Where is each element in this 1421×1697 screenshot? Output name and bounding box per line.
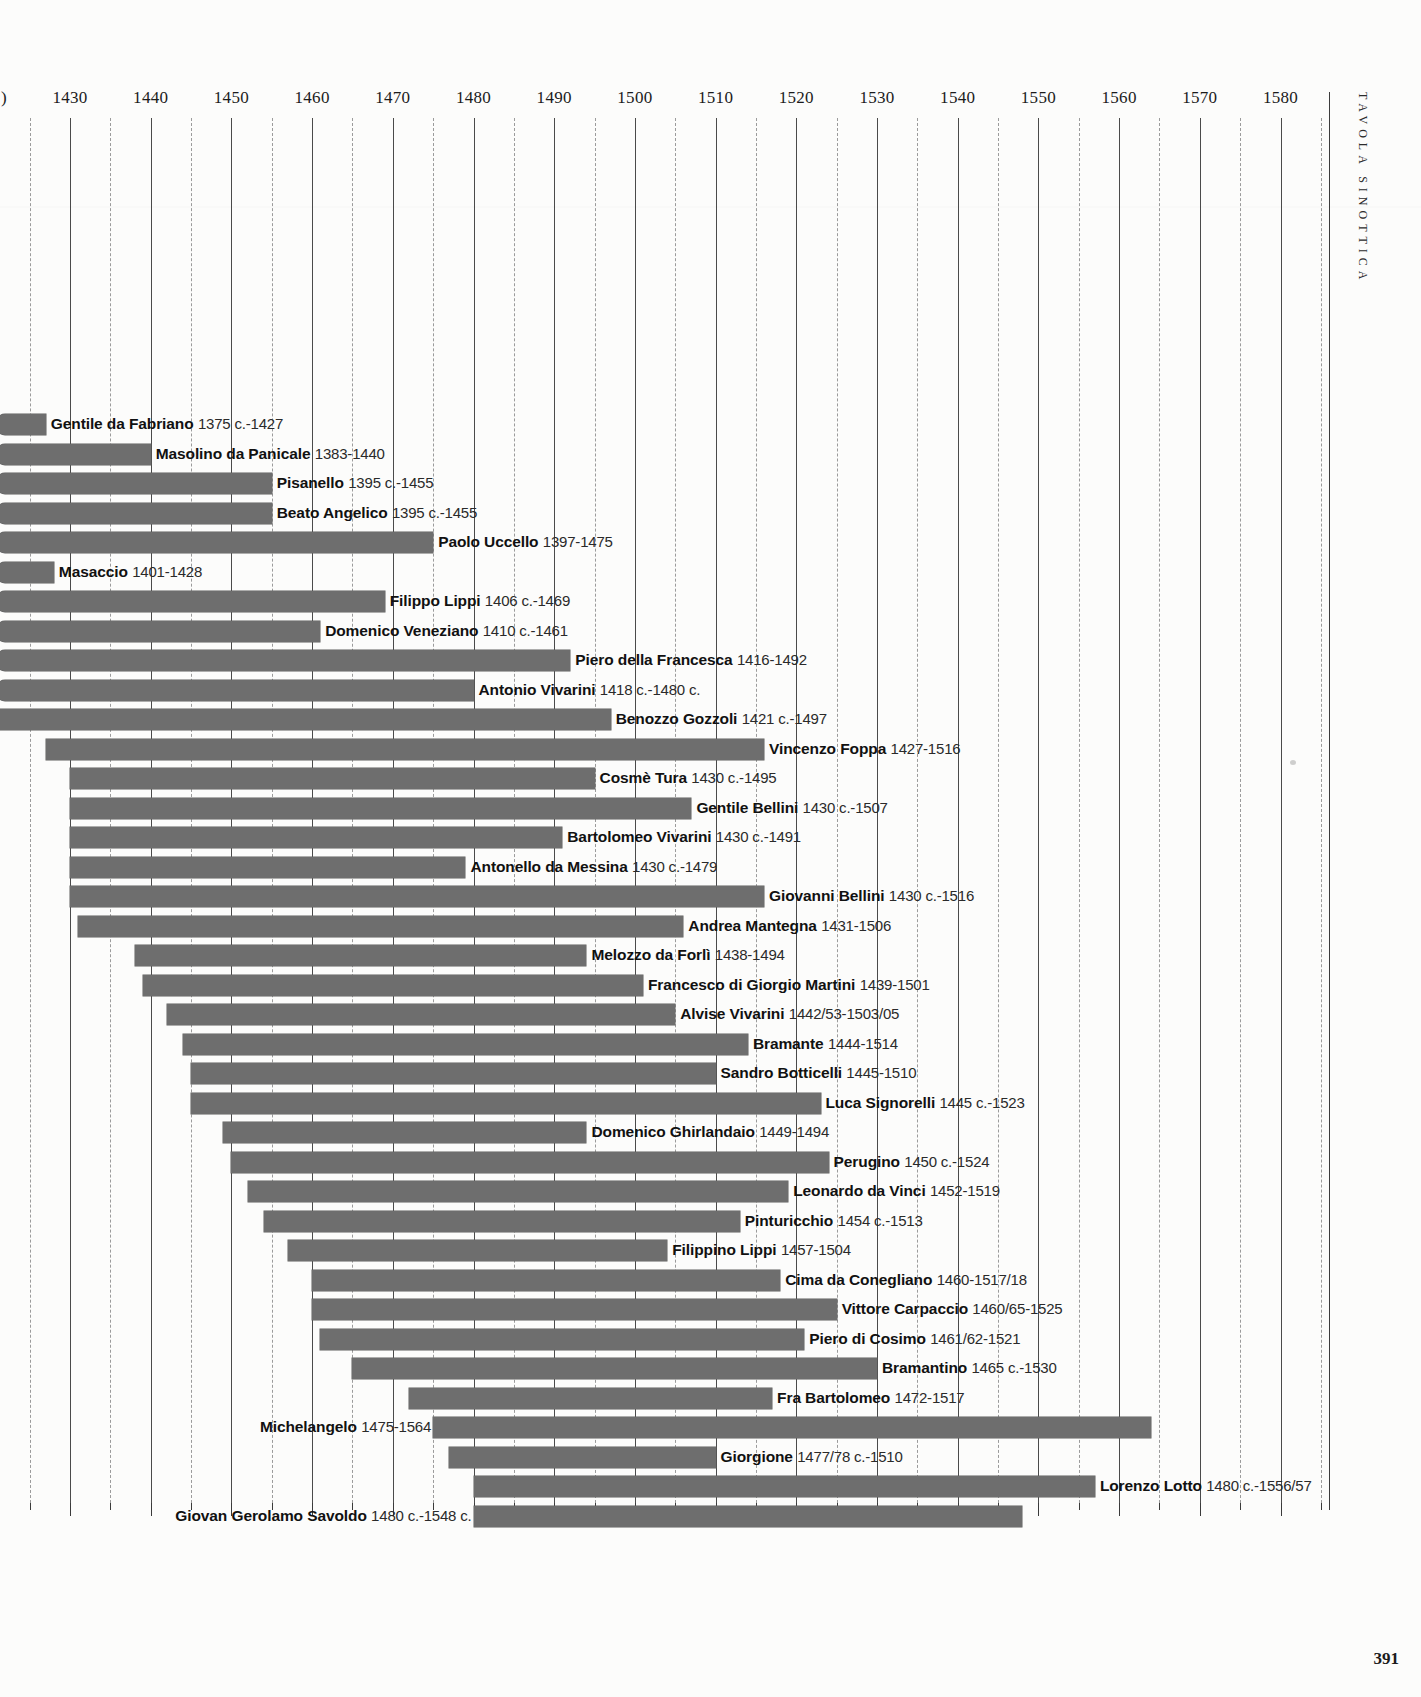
timeline-row[interactable]: Benozzo Gozzoli 1421 c.-1497 (0, 705, 1421, 734)
timeline-row[interactable]: Piero della Francesca 1416-1492 (0, 646, 1421, 675)
timeline-bar[interactable] (0, 444, 151, 465)
timeline-row[interactable]: Francesco di Giorgio Martini 1439-1501 (0, 971, 1421, 1000)
timeline-row[interactable]: Domenico Veneziano 1410 c.-1461 (0, 617, 1421, 646)
timeline-row[interactable]: Domenico Ghirlandaio 1449-1494 (0, 1118, 1421, 1147)
timeline-row[interactable]: Perugino 1450 c.-1524 (0, 1148, 1421, 1177)
timeline-bar[interactable] (248, 1181, 789, 1202)
timeline-bar[interactable] (409, 1388, 772, 1409)
timeline-row[interactable]: Fra Bartolomeo 1472-1517 (0, 1384, 1421, 1413)
timeline-bar[interactable] (46, 739, 764, 760)
artist-name: Gentile da Fabriano (51, 415, 194, 432)
timeline-bar[interactable] (312, 1270, 780, 1291)
timeline-row[interactable]: Andrea Mantegna 1431-1506 (0, 912, 1421, 941)
timeline-bar[interactable] (78, 916, 683, 937)
timeline-row[interactable]: Luca Signorelli 1445 c.-1523 (0, 1089, 1421, 1118)
timeline-row[interactable]: Filippo Lippi 1406 c.-1469 (0, 587, 1421, 616)
year-axis: )143014401450146014701480149015001510152… (0, 0, 1421, 60)
timeline-row[interactable]: Gentile da Fabriano 1375 c.-1427 (0, 410, 1421, 439)
artist-dates: 1472-1517 (895, 1389, 965, 1406)
timeline-row[interactable]: Michelangelo 1475-1564 (0, 1413, 1421, 1442)
timeline-row[interactable]: Pisanello 1395 c.-1455 (0, 469, 1421, 498)
timeline-bar[interactable] (70, 857, 465, 878)
timeline-bar[interactable] (143, 975, 643, 996)
artist-dates: 1438-1494 (715, 946, 785, 963)
timeline-bar[interactable] (0, 709, 611, 730)
timeline-bar[interactable] (70, 768, 595, 789)
timeline-bar[interactable] (0, 562, 54, 583)
timeline-row[interactable]: Leonardo da Vinci 1452-1519 (0, 1177, 1421, 1206)
timeline-row[interactable]: Pinturicchio 1454 c.-1513 (0, 1207, 1421, 1236)
timeline-row[interactable]: Filippino Lippi 1457-1504 (0, 1236, 1421, 1265)
timeline-bar[interactable] (0, 680, 474, 701)
timeline-bar[interactable] (0, 503, 272, 524)
timeline-bar[interactable] (0, 621, 320, 642)
timeline-bar[interactable] (320, 1329, 804, 1350)
timeline-bar[interactable] (223, 1122, 586, 1143)
artist-dates: 1449-1494 (759, 1123, 829, 1140)
timeline-row[interactable]: Masolino da Panicale 1383-1440 (0, 440, 1421, 469)
timeline-bar[interactable] (433, 1417, 1151, 1438)
timeline-row[interactable]: Giorgione 1477/78 c.-1510 (0, 1443, 1421, 1472)
artist-dates: 1445-1510 (846, 1064, 916, 1081)
artist-name: Alvise Vivarini (680, 1005, 784, 1022)
timeline-bar[interactable] (0, 473, 272, 494)
timeline-row[interactable]: Lorenzo Lotto 1480 c.-1556/57 (0, 1472, 1421, 1501)
artist-name: Pisanello (277, 474, 344, 491)
timeline-bar-label: Bramante 1444-1514 (753, 1030, 898, 1059)
timeline-bar[interactable] (474, 1476, 1095, 1497)
timeline-bar[interactable] (70, 886, 764, 907)
timeline-bar[interactable] (0, 591, 385, 612)
timeline-bar[interactable] (474, 1506, 1023, 1527)
timeline-bar[interactable] (231, 1152, 828, 1173)
timeline-row[interactable]: Giovanni Bellini 1430 c.-1516 (0, 882, 1421, 911)
axis-tick-label-1570: 1570 (1182, 88, 1217, 108)
timeline-row[interactable]: Vincenzo Foppa 1427-1516 (0, 735, 1421, 764)
timeline-bar[interactable] (70, 798, 691, 819)
timeline-row[interactable]: Bramantino 1465 c.-1530 (0, 1354, 1421, 1383)
artist-name: Domenico Veneziano (325, 622, 478, 639)
timeline-row[interactable]: Vittore Carpaccio 1460/65-1525 (0, 1295, 1421, 1324)
timeline-bar[interactable] (167, 1004, 675, 1025)
artist-dates: 1418 c.-1480 c. (600, 681, 700, 698)
timeline-bar[interactable] (288, 1240, 667, 1261)
timeline-bar[interactable] (135, 945, 587, 966)
timeline-bar[interactable] (352, 1358, 877, 1379)
timeline-bar[interactable] (0, 650, 570, 671)
timeline-row[interactable]: Sandro Botticelli 1445-1510 (0, 1059, 1421, 1088)
timeline-row[interactable]: Cosmè Tura 1430 c.-1495 (0, 764, 1421, 793)
timeline-bar-label: Pinturicchio 1454 c.-1513 (745, 1207, 923, 1236)
timeline-bar[interactable] (183, 1034, 748, 1055)
artist-dates: 1460/65-1525 (972, 1300, 1062, 1317)
artist-name: Domenico Ghirlandaio (591, 1123, 754, 1140)
timeline-bar[interactable] (0, 532, 433, 553)
timeline-bar[interactable] (264, 1211, 740, 1232)
timeline-bar[interactable] (0, 414, 46, 435)
timeline-row[interactable]: Bartolomeo Vivarini 1430 c.-1491 (0, 823, 1421, 852)
timeline-row[interactable]: Antonio Vivarini 1418 c.-1480 c. (0, 676, 1421, 705)
timeline-row[interactable]: Paolo Uccello 1397-1475 (0, 528, 1421, 557)
timeline-row[interactable]: Giovan Gerolamo Savoldo 1480 c.-1548 c. (0, 1502, 1421, 1531)
artist-dates: 1395 c.-1455 (348, 474, 433, 491)
timeline-row[interactable]: Melozzo da Forlì 1438-1494 (0, 941, 1421, 970)
timeline-row[interactable]: Alvise Vivarini 1442/53-1503/05 (0, 1000, 1421, 1029)
timeline-bar[interactable] (70, 827, 562, 848)
timeline-bar[interactable] (312, 1299, 837, 1320)
timeline-row[interactable]: Bramante 1444-1514 (0, 1030, 1421, 1059)
axis-tick-label-1450: 1450 (214, 88, 249, 108)
timeline-row[interactable]: Cima da Conegliano 1460-1517/18 (0, 1266, 1421, 1295)
side-rule (1329, 92, 1330, 1510)
timeline-bar-label: Beato Angelico 1395 c.-1455 (277, 499, 477, 528)
timeline-bar[interactable] (191, 1063, 716, 1084)
artist-dates: 1401-1428 (132, 563, 202, 580)
timeline-bar[interactable] (449, 1447, 715, 1468)
timeline-row[interactable]: Antonello da Messina 1430 c.-1479 (0, 853, 1421, 882)
chart-plot-area: Gentile da Fabriano 1375 c.-1427Masolino… (0, 118, 1421, 1503)
timeline-row[interactable]: Piero di Cosimo 1461/62-1521 (0, 1325, 1421, 1354)
timeline-row[interactable]: Masaccio 1401-1428 (0, 558, 1421, 587)
artist-name: Fra Bartolomeo (777, 1389, 890, 1406)
timeline-row[interactable]: Gentile Bellini 1430 c.-1507 (0, 794, 1421, 823)
timeline-bar[interactable] (191, 1093, 820, 1114)
artist-dates: 1427-1516 (891, 740, 961, 757)
timeline-row[interactable]: Beato Angelico 1395 c.-1455 (0, 499, 1421, 528)
timeline-bar-label: Fra Bartolomeo 1472-1517 (777, 1384, 964, 1413)
